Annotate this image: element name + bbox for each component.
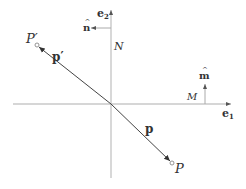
e2-axis-label: e2	[97, 7, 109, 21]
vector-p-prime-label: p′	[52, 50, 64, 64]
n-hat-accent: ^	[85, 18, 91, 26]
point-p-marker	[170, 161, 174, 165]
line-n-label: N	[113, 40, 124, 53]
vector-p-label: p	[145, 122, 153, 136]
reflection-diagram: e2 n ^ N P′ p′ M m ^ e1 p P	[0, 0, 246, 189]
point-p-label: P	[174, 161, 184, 176]
point-p-prime-label: P′	[25, 31, 38, 46]
p-vector	[111, 104, 170, 161]
e1-axis-label: e1	[222, 107, 234, 121]
line-m-label: M	[186, 91, 198, 102]
p-prime-vector	[39, 47, 111, 104]
m-hat-accent: ^	[202, 66, 208, 74]
